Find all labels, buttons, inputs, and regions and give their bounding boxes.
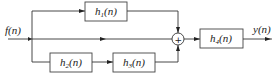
- line-h3-to-sum: [155, 45, 178, 62]
- arrow-head-icon: [28, 37, 32, 41]
- line-h1-to-sum: [127, 11, 178, 33]
- block-h3-label: h3(n): [123, 56, 145, 70]
- output-label: y(n): [252, 23, 271, 36]
- arrow-head-icon: [79, 9, 85, 13]
- block-h1-label: h1(n): [95, 5, 117, 19]
- block-diagram: f(n) h1(n) h2(n) h3(n) + h4(n) y(n): [0, 0, 274, 77]
- arrow-head-icon: [176, 27, 180, 33]
- plus-icon: +: [175, 35, 183, 45]
- arrow-head-icon: [265, 37, 271, 41]
- block-h2-label: h2(n): [60, 56, 82, 70]
- input-label: f(n): [5, 24, 21, 37]
- block-h4-label: h4(n): [210, 32, 232, 46]
- arrow-head-icon: [176, 45, 180, 51]
- arrow-head-icon: [100, 37, 106, 41]
- arrow-head-icon: [107, 60, 113, 64]
- arrow-head-icon: [194, 37, 200, 41]
